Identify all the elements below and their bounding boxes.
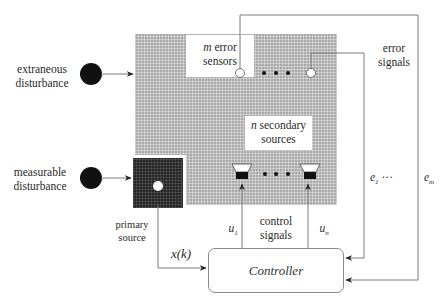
un-sub: n [325, 229, 329, 237]
error-signals-line1: error [383, 42, 405, 54]
e1-label: e1 ··· [370, 170, 410, 189]
error-signals-line2: signals [378, 56, 410, 68]
controller-block: Controller [208, 248, 344, 293]
control-line2: signals [260, 229, 292, 241]
u1-sub: 1 [234, 229, 238, 237]
control-line1: control [260, 215, 293, 227]
em-label: em [424, 170, 444, 189]
control-signals-label: control signals [250, 214, 302, 242]
reference-signal-label: x(k) [164, 247, 198, 261]
sensor-icons [236, 69, 316, 78]
u1-label: u1 [226, 221, 240, 240]
un-label: un [316, 221, 332, 240]
error-signals-label: error signals [372, 41, 416, 69]
controller-label: Controller [249, 263, 303, 279]
speaker-icons [232, 164, 320, 179]
em-sub: m [429, 178, 434, 186]
e1-sub: 1 [375, 178, 379, 186]
e-ellipsis: ··· [381, 171, 393, 183]
